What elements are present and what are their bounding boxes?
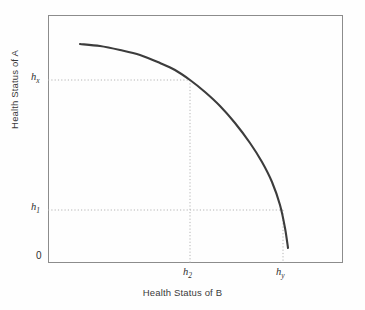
y-axis-title: Health Status of A <box>9 35 20 145</box>
chart-figure: hx h1 0 h2 hy Health Status of B Health … <box>0 0 365 310</box>
y-tick-h1-subscript: 1 <box>36 206 40 215</box>
guide-lines-group <box>48 80 283 263</box>
x-tick-hy-subscript: y <box>281 271 284 280</box>
plot-canvas <box>0 0 365 310</box>
y-tick-label-zero: 0 <box>36 250 42 261</box>
series-line-0 <box>80 44 288 248</box>
y-tick-hx-subscript: x <box>36 76 39 85</box>
x-tick-label-hy: hy <box>276 266 285 280</box>
data-series-group <box>80 44 288 248</box>
x-tick-h2-subscript: 2 <box>188 271 192 280</box>
y-axis-title-wrapper: Health Status of A <box>9 35 20 145</box>
x-axis-title: Health Status of B <box>0 287 365 298</box>
y-tick-label-h1: h1 <box>31 201 40 215</box>
x-tick-label-h2: h2 <box>183 266 192 280</box>
y-tick-label-hx: hx <box>31 71 40 85</box>
